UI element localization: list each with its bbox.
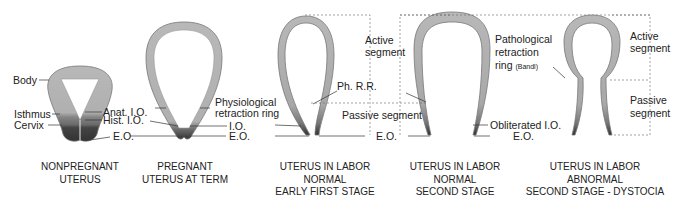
label-pathological-line3: ring (Bandl) — [495, 59, 538, 73]
caption-line: PREGNANT — [135, 161, 235, 174]
label-passive-segment-5-line2: segment — [630, 107, 670, 119]
label-ring: ring — [495, 59, 513, 71]
caption-line: UTERUS IN LABOR — [265, 161, 385, 174]
label-bandl: (Bandl) — [515, 63, 538, 70]
label-eo-3: E.O. — [376, 130, 397, 142]
nonpregnant-uterus-shape — [48, 66, 112, 141]
label-passive-segment: Passive segment — [342, 109, 422, 121]
caption-line: EARLY FIRST STAGE — [265, 186, 385, 199]
labor-second-uterus-shape — [414, 12, 490, 135]
caption-line: ABNORMAL — [520, 174, 670, 187]
caption-line: NORMAL — [265, 174, 385, 187]
caption-line: UTERUS IN LABOR — [520, 161, 670, 174]
label-ph-rr: Ph. R.R. — [337, 80, 377, 92]
caption-nonpregnant: NONPREGNANT UTERUS — [20, 161, 140, 186]
caption-labor-second: UTERUS IN LABOR NORMAL SECOND STAGE — [400, 161, 510, 199]
label-cervix: Cervix — [14, 119, 44, 131]
label-pathological-line1: Pathological — [495, 33, 552, 45]
label-active-segment-5-line1: Active — [630, 30, 659, 42]
caption-line: UTERUS AT TERM — [135, 174, 235, 187]
label-pathological-line2: retraction — [495, 46, 539, 58]
caption-line: UTERUS — [20, 174, 140, 187]
uterus-labor-diagram: Body Isthmus Cervix Anat. I.O. Hist. I.O… — [0, 0, 680, 202]
labor-early-uterus-shape — [278, 16, 334, 135]
label-active-segment-line1: Active — [365, 34, 394, 46]
label-eo-4: E.O. — [513, 130, 534, 142]
label-hist-io: Hist. I.O. — [103, 114, 144, 126]
caption-line: SECOND STAGE - DYSTOCIA — [520, 186, 670, 199]
caption-line: NONPREGNANT — [20, 161, 140, 174]
caption-labor-dystocia: UTERUS IN LABOR ABNORMAL SECOND STAGE - … — [520, 161, 670, 199]
label-active-segment-5-line2: segment — [630, 42, 670, 54]
caption-line: NORMAL — [400, 174, 510, 187]
caption-line: UTERUS IN LABOR — [400, 161, 510, 174]
caption-labor-early: UTERUS IN LABOR NORMAL EARLY FIRST STAGE — [265, 161, 385, 199]
labor-dystocia-leaders — [553, 67, 565, 78]
pregnant-uterus-shape — [146, 22, 222, 139]
label-physiological-ring-line2: retraction ring — [215, 107, 279, 119]
labor-dystocia-uterus-shape — [564, 15, 620, 135]
label-eo-1: E.O. — [113, 130, 134, 142]
label-passive-segment-5-line1: Passive — [630, 94, 667, 106]
label-body: Body — [13, 74, 37, 86]
label-active-segment-line2: segment — [365, 46, 405, 58]
caption-pregnant: PREGNANT UTERUS AT TERM — [135, 161, 235, 186]
caption-line: SECOND STAGE — [400, 186, 510, 199]
label-eo-2: E.O. — [229, 130, 250, 142]
